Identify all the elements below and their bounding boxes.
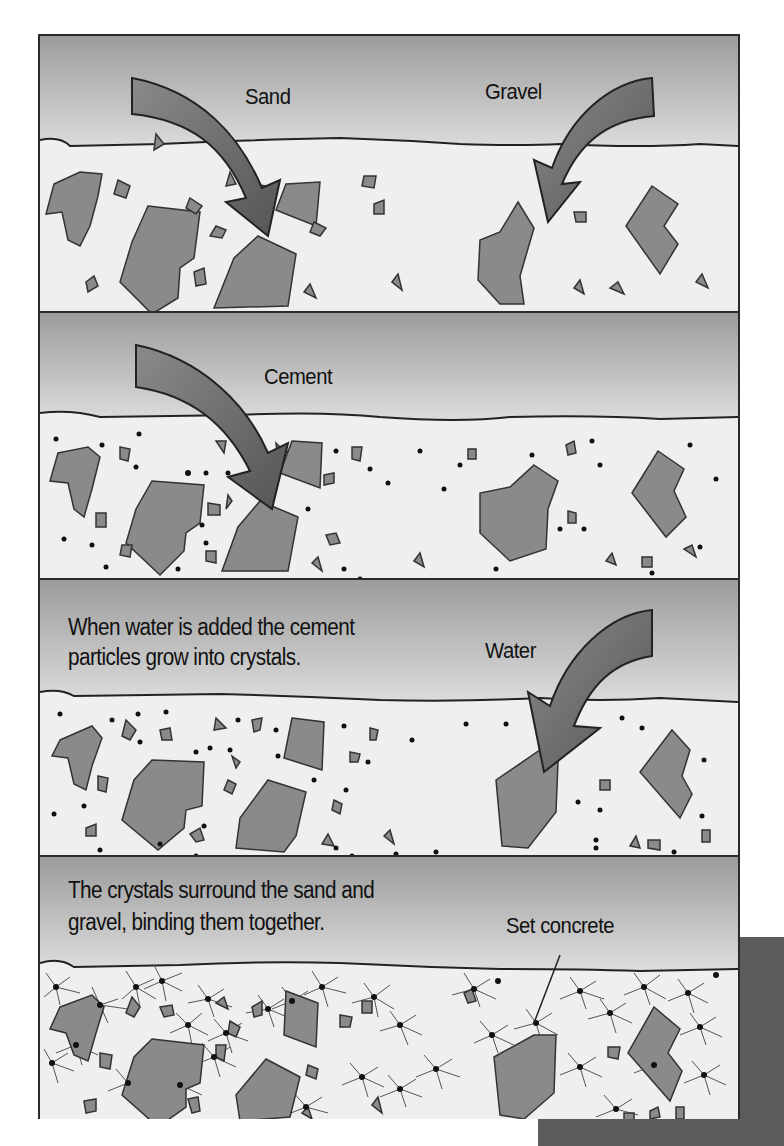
cement-label: Cement	[264, 364, 332, 390]
panel-water: When water is added the cement particles…	[40, 578, 738, 857]
panel-cement: Cement	[40, 311, 738, 580]
step-4-caption-line-2: gravel, binding them together.	[68, 907, 325, 937]
panel-set-concrete: The crystals surround the sand and grave…	[40, 855, 738, 1119]
panel-2-illustration	[40, 313, 738, 580]
concrete-diagram: Sand Gravel	[38, 34, 740, 1119]
step-3-caption-line-2: particles grow into crystals.	[68, 642, 301, 672]
panel-sand-gravel: Sand Gravel	[40, 36, 738, 311]
set-concrete-label: Set concrete	[506, 913, 614, 939]
panel-1-illustration	[40, 36, 738, 311]
sand-label: Sand	[245, 84, 290, 110]
step-3-caption-line-1: When water is added the cement	[68, 612, 354, 642]
step-4-caption-line-1: The crystals surround the sand and	[68, 875, 374, 905]
gravel-label: Gravel	[485, 79, 542, 105]
water-label: Water	[485, 638, 536, 664]
